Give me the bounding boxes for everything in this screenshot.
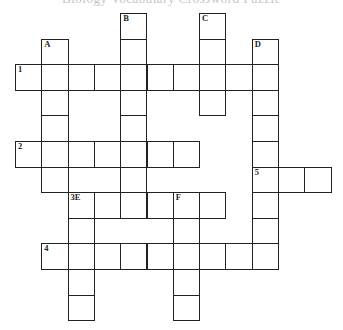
grid-cell[interactable]: [147, 141, 174, 168]
grid-cell[interactable]: [252, 218, 279, 245]
cell-letter-input[interactable]: [226, 65, 251, 90]
grid-cell[interactable]: [68, 218, 95, 245]
grid-cell[interactable]: [173, 243, 200, 270]
grid-cell[interactable]: [173, 64, 200, 91]
cell-letter-input[interactable]: [121, 91, 146, 116]
grid-cell[interactable]: [120, 141, 147, 168]
cell-letter-input[interactable]: [174, 244, 199, 269]
cell-letter-input[interactable]: [121, 14, 146, 39]
cell-letter-input[interactable]: [121, 142, 146, 167]
cell-letter-input[interactable]: [253, 219, 278, 244]
grid-cell[interactable]: [173, 218, 200, 245]
grid-cell[interactable]: 5: [252, 167, 279, 194]
grid-cell[interactable]: [120, 90, 147, 117]
grid-cell[interactable]: [41, 115, 68, 142]
cell-letter-input[interactable]: [69, 193, 94, 218]
grid-cell[interactable]: [120, 167, 147, 194]
cell-letter-input[interactable]: [200, 14, 225, 39]
grid-cell[interactable]: [252, 115, 279, 142]
cell-letter-input[interactable]: [200, 40, 225, 65]
grid-cell[interactable]: [120, 243, 147, 270]
cell-letter-input[interactable]: [95, 142, 120, 167]
grid-cell[interactable]: [304, 167, 331, 194]
grid-cell[interactable]: [68, 243, 95, 270]
cell-letter-input[interactable]: [69, 296, 94, 321]
grid-cell[interactable]: [120, 64, 147, 91]
cell-letter-input[interactable]: [174, 193, 199, 218]
cell-letter-input[interactable]: [148, 193, 173, 218]
cell-letter-input[interactable]: [69, 142, 94, 167]
grid-cell[interactable]: [68, 295, 95, 322]
cell-letter-input[interactable]: [121, 65, 146, 90]
cell-letter-input[interactable]: [200, 244, 225, 269]
grid-cell[interactable]: [94, 141, 121, 168]
grid-cell[interactable]: [41, 90, 68, 117]
cell-letter-input[interactable]: [121, 244, 146, 269]
grid-cell[interactable]: [120, 192, 147, 219]
cell-letter-input[interactable]: [174, 270, 199, 295]
grid-cell[interactable]: [147, 243, 174, 270]
cell-letter-input[interactable]: [148, 142, 173, 167]
cell-letter-input[interactable]: [253, 168, 278, 193]
grid-cell[interactable]: [252, 90, 279, 117]
cell-letter-input[interactable]: [42, 91, 67, 116]
cell-letter-input[interactable]: [42, 142, 67, 167]
cell-letter-input[interactable]: [253, 116, 278, 141]
cell-letter-input[interactable]: [200, 193, 225, 218]
grid-cell[interactable]: [120, 39, 147, 66]
grid-cell[interactable]: [68, 64, 95, 91]
cell-letter-input[interactable]: [148, 65, 173, 90]
cell-letter-input[interactable]: [95, 244, 120, 269]
grid-cell[interactable]: [173, 141, 200, 168]
cell-letter-input[interactable]: [69, 65, 94, 90]
cell-letter-input[interactable]: [200, 65, 225, 90]
cell-letter-input[interactable]: [121, 40, 146, 65]
grid-cell[interactable]: [68, 269, 95, 296]
cell-letter-input[interactable]: [174, 142, 199, 167]
grid-cell[interactable]: [199, 39, 226, 66]
cell-letter-input[interactable]: [95, 193, 120, 218]
grid-cell[interactable]: [252, 243, 279, 270]
grid-cell[interactable]: [41, 167, 68, 194]
grid-cell[interactable]: [147, 192, 174, 219]
cell-letter-input[interactable]: [148, 244, 173, 269]
grid-cell[interactable]: [41, 64, 68, 91]
cell-letter-input[interactable]: [42, 40, 67, 65]
grid-cell[interactable]: [199, 64, 226, 91]
grid-cell[interactable]: A: [41, 39, 68, 66]
cell-letter-input[interactable]: [121, 193, 146, 218]
cell-letter-input[interactable]: [174, 219, 199, 244]
grid-cell[interactable]: [41, 141, 68, 168]
grid-cell[interactable]: [94, 243, 121, 270]
cell-letter-input[interactable]: [174, 296, 199, 321]
grid-cell[interactable]: C: [199, 13, 226, 40]
cell-letter-input[interactable]: [42, 116, 67, 141]
grid-cell[interactable]: [225, 64, 252, 91]
grid-cell[interactable]: [278, 167, 305, 194]
cell-letter-input[interactable]: [226, 244, 251, 269]
cell-letter-input[interactable]: [121, 116, 146, 141]
cell-letter-input[interactable]: [121, 168, 146, 193]
grid-cell[interactable]: [199, 90, 226, 117]
cell-letter-input[interactable]: [253, 65, 278, 90]
cell-letter-input[interactable]: [42, 168, 67, 193]
cell-letter-input[interactable]: [279, 168, 304, 193]
grid-cell[interactable]: [94, 192, 121, 219]
grid-cell[interactable]: [68, 141, 95, 168]
grid-cell[interactable]: [173, 269, 200, 296]
grid-cell[interactable]: [199, 192, 226, 219]
cell-letter-input[interactable]: [253, 142, 278, 167]
cell-letter-input[interactable]: [69, 244, 94, 269]
grid-cell[interactable]: 4: [41, 243, 68, 270]
cell-letter-input[interactable]: [95, 65, 120, 90]
cell-letter-input[interactable]: [174, 65, 199, 90]
grid-cell[interactable]: [120, 115, 147, 142]
cell-letter-input[interactable]: [69, 270, 94, 295]
grid-cell[interactable]: B: [120, 13, 147, 40]
cell-letter-input[interactable]: [69, 219, 94, 244]
cell-letter-input[interactable]: [42, 244, 67, 269]
cell-letter-input[interactable]: [305, 168, 330, 193]
grid-cell[interactable]: D: [252, 39, 279, 66]
cell-letter-input[interactable]: [42, 65, 67, 90]
grid-cell[interactable]: [199, 243, 226, 270]
